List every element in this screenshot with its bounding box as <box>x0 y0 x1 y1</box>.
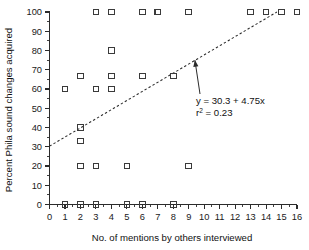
x-tick-label: 2 <box>78 212 83 222</box>
data-point-marker <box>140 73 146 79</box>
regression-annotation: y = 30.3 + 4.75x r2 = 0.23 <box>193 60 265 118</box>
r-squared-text: r2 = 0.23 <box>196 107 232 119</box>
data-point-marker <box>109 73 115 79</box>
x-tick-label: 14 <box>261 212 271 222</box>
y-axis-title-group: Percent Phila sound changes acquired <box>3 28 14 192</box>
chart-figure: Percent Phila sound changes acquired No.… <box>0 0 309 250</box>
data-point-marker <box>109 9 115 15</box>
y-tick-label: 20 <box>32 161 42 171</box>
data-point-marker <box>279 9 285 15</box>
y-tick-label: 70 <box>32 65 42 75</box>
data-point-marker <box>248 9 254 15</box>
data-point-marker <box>62 86 68 92</box>
y-axis-title: Percent Phila sound changes acquired <box>3 28 14 192</box>
data-point-marker <box>93 9 99 15</box>
data-point-marker <box>109 86 115 92</box>
data-point-marker <box>186 163 192 169</box>
x-tick-label: 8 <box>171 212 176 222</box>
data-point-marker <box>78 138 84 144</box>
x-tick-label: 1 <box>62 212 67 222</box>
x-tick-label: 4 <box>109 212 114 222</box>
y-tick-label: 50 <box>32 104 42 114</box>
x-tick-label: 10 <box>199 212 209 222</box>
scatter-plot: Percent Phila sound changes acquired No.… <box>0 0 309 250</box>
data-point-marker <box>78 163 84 169</box>
y-tick-label: 100 <box>26 7 42 17</box>
data-point-marker <box>140 9 146 15</box>
y-tick-label: 10 <box>32 181 42 191</box>
data-point-marker <box>109 48 115 54</box>
y-tick-label: 40 <box>32 123 42 133</box>
x-tick-label: 12 <box>230 212 240 222</box>
data-markers-group <box>62 9 300 207</box>
regression-equation-text: y = 30.3 + 4.75x <box>196 95 265 106</box>
x-tick-label: 7 <box>155 212 160 222</box>
x-tick-label: 6 <box>140 212 145 222</box>
x-tick-label: 15 <box>276 212 286 222</box>
data-point-marker <box>78 73 84 79</box>
data-point-marker <box>263 9 269 15</box>
y-tick-label: 60 <box>32 84 42 94</box>
data-point-marker <box>93 86 99 92</box>
x-tick-label: 11 <box>215 212 225 222</box>
x-axis-title-group: No. of mentions by others interviewed <box>92 232 253 243</box>
data-point-marker <box>170 73 176 79</box>
x-tick-label: 5 <box>124 212 129 222</box>
y-tick-label: 90 <box>32 27 42 37</box>
y-tick-label: 30 <box>32 142 42 152</box>
x-tick-label: 16 <box>292 212 302 222</box>
data-point-marker <box>186 9 192 15</box>
data-point-marker <box>124 163 130 169</box>
data-point-marker <box>155 9 161 15</box>
data-point-marker <box>294 9 300 15</box>
y-axis: 0102030405060708090100 <box>26 7 49 210</box>
x-tick-label: 9 <box>186 212 191 222</box>
x-tick-label: 3 <box>93 212 98 222</box>
y-tick-label: 80 <box>32 46 42 56</box>
y-tick-label: 0 <box>37 200 42 210</box>
data-point-marker <box>93 163 99 169</box>
x-tick-label: 13 <box>245 212 255 222</box>
r-squared-value: = 0.23 <box>203 107 233 118</box>
x-axis-title: No. of mentions by others interviewed <box>92 232 253 243</box>
x-tick-label: 0 <box>47 212 52 222</box>
